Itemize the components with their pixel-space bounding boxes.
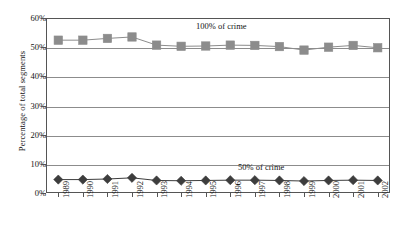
- x-tick-mark: [206, 193, 207, 197]
- data-point-square: [251, 41, 259, 49]
- x-tick-mark: [230, 193, 231, 197]
- series-lower: [54, 173, 383, 185]
- x-tick-mark: [83, 193, 84, 197]
- data-point-square: [300, 46, 308, 54]
- x-tick-mark: [157, 193, 158, 197]
- y-tick-label-40: 40%: [2, 72, 46, 81]
- data-point-square: [79, 36, 87, 44]
- data-point-square: [275, 42, 283, 50]
- x-tick-mark: [132, 193, 133, 197]
- data-point-diamond: [299, 176, 308, 185]
- data-point-diamond: [349, 176, 358, 185]
- data-point-diamond: [78, 175, 87, 184]
- data-point-square: [202, 42, 210, 50]
- y-tick-label-0: 0%: [2, 189, 46, 198]
- data-point-square: [54, 36, 62, 44]
- data-point-square: [374, 44, 382, 52]
- data-point-diamond: [201, 176, 210, 185]
- data-point-square: [324, 43, 332, 51]
- y-tick-label-30: 30%: [2, 102, 46, 111]
- x-tick-mark: [304, 193, 305, 197]
- y-tick-label-20: 20%: [2, 131, 46, 140]
- series-annotation-lower: 50% of crime: [238, 163, 284, 172]
- data-point-square: [152, 41, 160, 49]
- x-tick-mark: [181, 193, 182, 197]
- data-point-square: [226, 41, 234, 49]
- y-tick-label-50: 50%: [2, 43, 46, 52]
- x-tick-mark: [353, 193, 354, 197]
- x-tick-mark: [279, 193, 280, 197]
- data-point-square: [349, 41, 357, 49]
- data-point-diamond: [103, 174, 112, 183]
- x-tick-mark: [329, 193, 330, 197]
- data-series-layer: [46, 18, 390, 193]
- data-point-diamond: [226, 176, 235, 185]
- y-tick-label-60: 60%: [2, 14, 46, 23]
- x-tick-mark: [107, 193, 108, 197]
- x-tick-mark: [255, 193, 256, 197]
- data-point-diamond: [127, 173, 136, 182]
- y-tick-mark: [41, 193, 46, 194]
- data-point-diamond: [177, 176, 186, 185]
- data-point-square: [128, 33, 136, 41]
- data-point-diamond: [152, 176, 161, 185]
- data-point-diamond: [324, 176, 333, 185]
- x-tick-mark: [378, 193, 379, 197]
- data-point-diamond: [250, 176, 259, 185]
- y-tick-label-10: 10%: [2, 160, 46, 169]
- x-tick-mark: [58, 193, 59, 197]
- data-point-diamond: [275, 176, 284, 185]
- data-point-square: [177, 42, 185, 50]
- data-point-diamond: [54, 175, 63, 184]
- chart-container: Percentage of total segments 60%50%40%30…: [0, 0, 404, 252]
- data-point-diamond: [373, 176, 382, 185]
- data-point-square: [103, 34, 111, 42]
- series-upper: [54, 33, 382, 55]
- series-annotation-upper: 100% of crime: [196, 22, 247, 31]
